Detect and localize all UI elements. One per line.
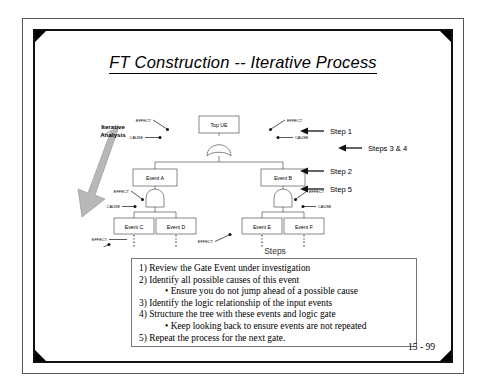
or-gate-top bbox=[207, 145, 231, 162]
step-marker-2: Steps 3 & 4 bbox=[338, 144, 407, 153]
corner-accent-bottom-right bbox=[440, 350, 451, 361]
annotation-effect-label-5: EFFECT bbox=[92, 237, 108, 242]
steps-item: 1) Review the Gate Event under investiga… bbox=[139, 263, 410, 275]
and-gate-a bbox=[146, 189, 164, 212]
node-top-ue-label: Top UE bbox=[210, 122, 228, 128]
steps-item: • Keep looking back to ensure events are… bbox=[139, 321, 410, 333]
corner-accent-top-right bbox=[440, 31, 451, 42]
iterative-analysis-label-line1: Iterative bbox=[101, 123, 125, 130]
step-marker-1: Step 1 bbox=[300, 127, 352, 136]
steps-caption: Steps bbox=[135, 246, 415, 256]
page-title: FT Construction -- Iterative Process bbox=[35, 53, 451, 72]
node-event-c-label: Event C bbox=[125, 224, 144, 230]
step-marker-4: Step 5 bbox=[300, 185, 352, 194]
step-marker-3-label: Step 2 bbox=[330, 167, 352, 176]
steps-item: 5) Repeat the process for the next gate. bbox=[139, 333, 410, 345]
annotation-effect-label-6: EFFECT bbox=[198, 239, 214, 244]
annotation-effect-label-1: EFFECT bbox=[136, 118, 152, 123]
node-event-d-label: Event D bbox=[167, 224, 186, 230]
iterative-analysis-label-line2: Analysis bbox=[100, 131, 126, 138]
step-marker-3: Step 2 bbox=[300, 167, 352, 176]
steps-item: 2) Identify all possible causes of this … bbox=[139, 275, 410, 287]
page-number: 15 - 99 bbox=[408, 342, 435, 352]
step-marker-2-label: Steps 3 & 4 bbox=[368, 144, 407, 153]
node-event-e-label: Event E bbox=[253, 224, 272, 230]
step-marker-4-label: Step 5 bbox=[330, 185, 352, 194]
annotation-bottom-middle-effect-cause: EFFECT CAUSE bbox=[188, 233, 232, 247]
annotation-bottom-left-effect-cause: EFFECT CAUSE bbox=[81, 237, 127, 247]
steps-item: 3) Identify the logic relationship of th… bbox=[139, 298, 410, 310]
steps-box: 1) Review the Gate Event under investiga… bbox=[131, 258, 417, 347]
annotation-effect-label-3: EFFECT bbox=[114, 189, 130, 194]
step-marker-1-label: Step 1 bbox=[330, 127, 352, 136]
node-event-f-label: Event F bbox=[295, 224, 313, 230]
annotation-top-left-effect-cause: EFFECT CAUSE bbox=[130, 118, 169, 140]
corner-accent-bottom-left bbox=[35, 350, 46, 361]
steps-item: 4) Structure the tree with these events … bbox=[139, 309, 410, 321]
annotation-cause-label-3: CAUSE bbox=[107, 204, 121, 209]
slide-inner-frame: FT Construction -- Iterative Process Ite… bbox=[33, 29, 453, 363]
page-title-text: FT Construction -- Iterative Process bbox=[109, 53, 377, 74]
node-event-a-label: Event A bbox=[146, 175, 164, 181]
corner-accent-top-left bbox=[35, 31, 46, 42]
steps-item: • Ensure you do not jump ahead of a poss… bbox=[139, 286, 410, 298]
annotation-cause-label-1: CAUSE bbox=[130, 135, 144, 140]
annotation-event-a-effect-cause: EFFECT CAUSE bbox=[107, 189, 144, 209]
slide-outer-frame: FT Construction -- Iterative Process Ite… bbox=[22, 18, 464, 374]
